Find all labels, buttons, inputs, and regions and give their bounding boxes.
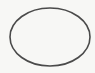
ellipse-outline — [10, 8, 90, 66]
drawing-canvas — [0, 0, 95, 73]
drawing-svg — [0, 0, 95, 73]
